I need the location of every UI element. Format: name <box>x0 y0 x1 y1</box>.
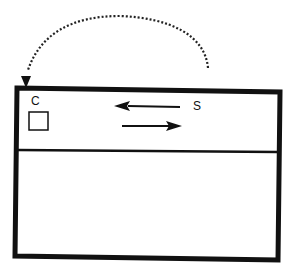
outer-box <box>15 88 280 260</box>
server-label: S <box>193 99 201 113</box>
curved-arrow-icon <box>21 16 208 88</box>
client-label: C <box>31 94 40 108</box>
client-node-square <box>29 112 48 130</box>
diagram-canvas <box>0 0 300 274</box>
